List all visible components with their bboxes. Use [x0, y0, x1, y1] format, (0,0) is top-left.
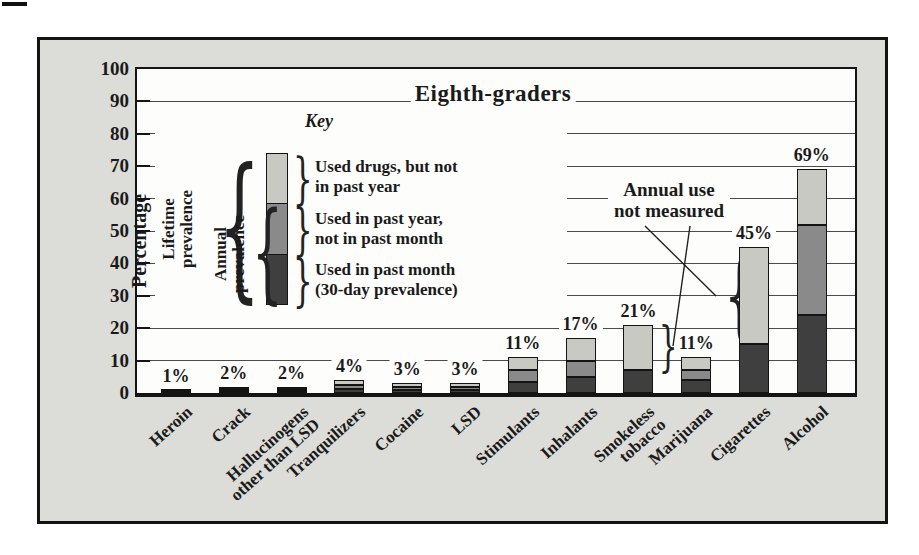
value-label-21%: 21% [616, 301, 660, 322]
bar-segment-past-month [566, 377, 596, 393]
bar-segment-past-month [797, 315, 827, 393]
value-label-11%: 11% [675, 333, 718, 354]
bar-tranquilizers [334, 380, 364, 393]
bar-segment-lifetime-only [277, 387, 307, 390]
y-tick-label-60: 60 [87, 188, 129, 210]
bar-hallucinogens-other-than-lsd [277, 387, 307, 393]
y-tick-10 [137, 360, 150, 362]
y-tick-label-40: 40 [87, 252, 129, 274]
y-axis-title: Percentage [128, 156, 152, 326]
y-tick-40 [137, 262, 150, 264]
bar-segment-annual-only [681, 370, 711, 380]
bar-segment-lifetime-only [508, 357, 538, 370]
bar-segment-annual-only [450, 387, 480, 390]
value-label-4%: 4% [332, 356, 367, 377]
bar-segment-lifetime-only [334, 380, 364, 385]
bar-cigarettes [739, 247, 769, 393]
y-tick-label-10: 10 [87, 350, 129, 372]
lifetime-prevalence-label: Lifetime prevalence [160, 181, 196, 277]
bar-segment-annual-only [566, 361, 596, 377]
value-label-69%: 69% [790, 145, 834, 166]
y-tick-label-100: 100 [87, 58, 129, 80]
value-label-17%: 17% [559, 314, 603, 335]
legend-sample-bar [266, 153, 288, 305]
bar-segment-past-month [277, 391, 307, 393]
value-label-2%: 2% [216, 363, 251, 384]
plot-area: Percentage Eighth-graders Key } } } Used… [135, 67, 857, 397]
y-tick-60 [137, 198, 150, 200]
figure-frame: Percentage Eighth-graders Key } } } Used… [37, 37, 888, 524]
bar-segment-annual-only [797, 225, 827, 316]
y-tick-70 [137, 165, 150, 167]
bar-segment-past-month [219, 391, 249, 393]
page: Percentage Eighth-graders Key } } } Used… [0, 0, 919, 555]
legend-heading: Key [305, 111, 333, 132]
page-crop-mark [2, 2, 27, 6]
value-label-45%: 45% [732, 223, 776, 244]
bar-heroin [161, 390, 191, 393]
legend-swatch-past-month [266, 254, 288, 305]
bar-segment-lifetime-only [566, 338, 596, 361]
value-label-3%: 3% [390, 359, 425, 380]
bar-segment-annual-only [277, 389, 307, 391]
bar-segment-lifetime-only [681, 357, 711, 370]
bar-stimulants [508, 357, 538, 393]
y-tick-label-90: 90 [87, 90, 129, 112]
bar-cocaine [392, 383, 422, 393]
y-tick-label-0: 0 [87, 382, 129, 404]
bar-segment-annual-only [392, 387, 422, 390]
legend-label-past-month: Used in past month (30-day prevalence) [315, 260, 545, 300]
bar-segment-lifetime-only [450, 383, 480, 387]
value-label-2%: 2% [274, 363, 309, 384]
bar-segment-past-month [739, 344, 769, 393]
bar-segment-annual-only [219, 389, 249, 391]
value-label-11%: 11% [501, 333, 544, 354]
legend-swatch-lifetime-only [266, 153, 288, 204]
bar-marijuana [681, 357, 711, 393]
annual-use-not-measured-note: Annual use not measured [608, 179, 730, 221]
bar-segment-lifetime-only [219, 387, 249, 390]
y-tick-label-30: 30 [87, 285, 129, 307]
bar-inhalants [566, 338, 596, 393]
bar-segment-past-month [623, 370, 653, 393]
value-label-1%: 1% [159, 366, 194, 387]
bar-smokeless-tobacco [623, 325, 653, 393]
legend-label-annual-only: Used in past year, not in past month [315, 209, 545, 249]
bar-segment-annual-only [334, 385, 364, 389]
bar-segment-lifetime-only [161, 389, 191, 391]
cigarettes-brace: { [709, 250, 743, 346]
chart-title: Eighth-graders [411, 81, 576, 107]
y-tick-30 [137, 295, 150, 297]
y-tick-label-70: 70 [87, 155, 129, 177]
bar-segment-lifetime-only [797, 169, 827, 224]
y-tick-label-50: 50 [87, 220, 129, 242]
value-label-3%: 3% [448, 359, 483, 380]
bar-segment-past-month [450, 390, 480, 393]
bar-segment-past-month [681, 380, 711, 393]
bar-lsd [450, 383, 480, 393]
legend-label-lifetime-only: Used drugs, but not in past year [315, 157, 545, 197]
bar-crack [219, 387, 249, 393]
y-tick-80 [137, 133, 150, 135]
annual-prevalence-label: Annual prevalence [212, 206, 248, 302]
y-tick-label-80: 80 [87, 123, 129, 145]
legend-swatch-annual-only [266, 203, 288, 255]
bar-segment-past-month [392, 390, 422, 393]
bar-alcohol [797, 169, 827, 393]
y-tick-50 [137, 230, 150, 232]
bar-segment-past-month [508, 382, 538, 393]
y-tick-20 [137, 327, 150, 329]
bar-segment-lifetime-only [623, 325, 653, 370]
bar-segment-lifetime-only [392, 383, 422, 387]
y-tick-label-20: 20 [87, 317, 129, 339]
bar-segment-lifetime-only [739, 247, 769, 344]
bar-segment-annual-only [508, 370, 538, 381]
y-tick-90 [137, 100, 150, 102]
bar-segment-past-month [334, 389, 364, 393]
